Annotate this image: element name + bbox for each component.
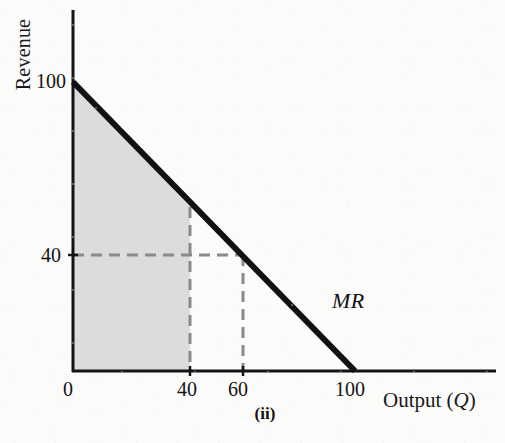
figure-panel-ii: Revenue 100 40 0 40 60 100 MR Output (Q)… [0,0,505,443]
x-axis-title-close: ) [469,388,476,412]
x-axis-title-variable: Q [454,388,469,412]
y-tick-label-40: 40 [41,244,61,267]
x-tick-label-60: 60 [228,378,248,401]
y-axis-title: Revenue [12,7,35,103]
mr-curve-label: MR [332,288,365,314]
x-tick-label-40: 40 [177,378,197,401]
x-axis-title: Output (Q) [383,388,476,413]
x-axis-title-text: Output ( [383,388,454,412]
y-tick-label-100: 100 [36,70,66,93]
total-revenue-shaded-area [73,82,190,371]
panel-caption: (ii) [238,404,292,424]
x-tick-label-100: 100 [335,378,365,401]
x-tick-label-0: 0 [63,378,73,401]
chart-canvas [0,0,505,443]
